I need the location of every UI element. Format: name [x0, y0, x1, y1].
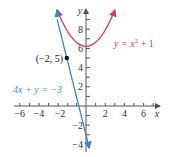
point-label: (−2, 5): [36, 53, 63, 65]
x-tick-label: −6: [14, 108, 25, 119]
parabola-label: y = x2 + 1: [113, 37, 154, 49]
y-tick-label: −4: [72, 139, 83, 150]
x-axis-label: x: [154, 108, 160, 119]
y-axis-label: y: [77, 5, 83, 16]
y-tick-label: −2: [72, 120, 83, 131]
y-tick-label: 2: [78, 81, 83, 92]
y-axis: 8 6 4 2 −2 −4 y: [72, 5, 90, 152]
x-tick-label: −2: [55, 108, 66, 119]
y-tick-label: 4: [78, 62, 83, 73]
graph-figure: −6 −4 −2 2 4 6 x 8 6 4 2 −2 −4 y: [0, 0, 172, 157]
line-label: 4x + y = −3: [13, 84, 62, 95]
tangent-arrow-top: [57, 11, 58, 15]
parabola-arrow-right: [114, 10, 115, 13]
tangent-arrow-bottom: [88, 144, 89, 148]
tangent-point: [65, 56, 69, 60]
x-axis: −6 −4 −2 2 4 6 x: [14, 103, 160, 119]
x-tick-label: 2: [103, 108, 108, 119]
y-tick-label: 8: [78, 24, 83, 35]
x-tick-label: −4: [34, 108, 45, 119]
x-tick-label: 4: [122, 108, 127, 119]
x-tick-label: 6: [141, 108, 146, 119]
